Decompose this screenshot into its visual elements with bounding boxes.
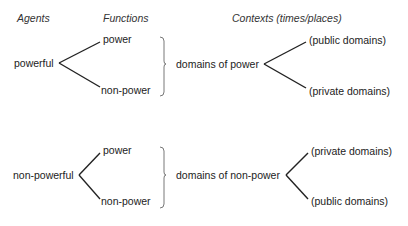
agent-label: powerful <box>14 57 54 69</box>
domain-label: domains of power <box>176 58 259 70</box>
context-label: (public domains) <box>309 34 386 46</box>
agent-fork-top <box>59 42 100 87</box>
context-fork-bottom <box>286 153 308 199</box>
context-label: (private domains) <box>309 85 390 97</box>
header-agents: Agents <box>17 12 50 24</box>
agent-fork-bottom <box>79 153 100 199</box>
function-label: non-power <box>101 84 151 96</box>
context-fork-top <box>264 42 306 88</box>
function-label: power <box>103 33 132 45</box>
context-label: (private domains) <box>311 145 392 157</box>
bracket-bottom <box>160 147 166 208</box>
context-label: (public domains) <box>311 195 388 207</box>
domain-label: domains of non-power <box>176 169 280 181</box>
function-label: non-power <box>101 195 151 207</box>
function-label: power <box>103 144 132 156</box>
header-contexts: Contexts (times/places) <box>232 12 342 24</box>
bracket-top <box>160 37 166 96</box>
agent-label: non-powerful <box>13 169 74 181</box>
header-functions: Functions <box>103 12 149 24</box>
